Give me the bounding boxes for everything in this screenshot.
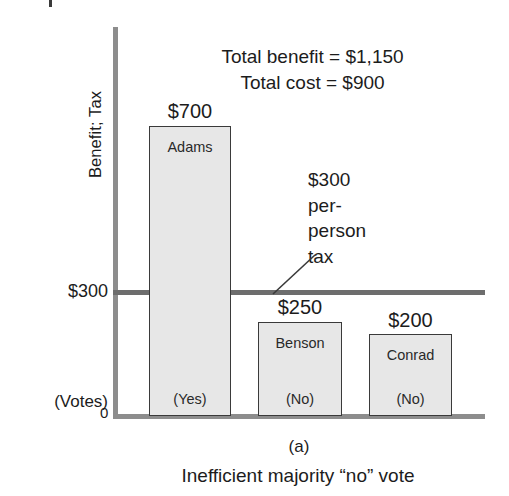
bar-vote-conrad: (No) bbox=[370, 391, 451, 407]
bar-label-conrad: Conrad bbox=[370, 347, 451, 363]
bar-value-conrad: $200 bbox=[369, 309, 452, 332]
bar-benson[interactable]: Benson (No) bbox=[258, 322, 342, 416]
bar-vote-benson: (No) bbox=[259, 391, 341, 407]
bar-adams[interactable]: Adams (Yes) bbox=[149, 126, 231, 416]
y-axis-line bbox=[113, 27, 118, 418]
totals-annotation: Total benefit = $1,150 Total cost = $900 bbox=[180, 44, 445, 96]
bar-value-adams: $700 bbox=[149, 100, 231, 123]
panel-letter-caption: (a) bbox=[113, 437, 485, 457]
y-tick-label-300: $300 bbox=[8, 281, 108, 302]
bar-conrad[interactable]: Conrad (No) bbox=[369, 334, 452, 416]
bar-label-benson: Benson bbox=[259, 335, 341, 351]
total-cost-text: Total cost = $900 bbox=[180, 70, 445, 96]
corner-crop-mark bbox=[49, 0, 52, 7]
tax-leader-line bbox=[265, 252, 325, 298]
y-axis-votes-label: (Votes) bbox=[8, 392, 108, 412]
figure-container: Benefit; Tax $300 (Votes) 0 Total benefi… bbox=[0, 0, 509, 496]
tax-note-line-2: per- bbox=[308, 193, 418, 219]
bar-value-benson: $250 bbox=[258, 296, 342, 319]
y-axis-title: Benefit; Tax bbox=[86, 35, 105, 235]
bar-vote-adams: (Yes) bbox=[150, 391, 230, 407]
bar-label-adams: Adams bbox=[150, 139, 230, 155]
tax-note-line-3: person bbox=[308, 218, 418, 244]
y-tick-label-zero: 0 bbox=[100, 404, 108, 421]
tax-note-line-1: $300 bbox=[308, 167, 418, 193]
total-benefit-text: Total benefit = $1,150 bbox=[180, 44, 445, 70]
figure-caption: Inefficient majority “no” vote bbox=[63, 465, 509, 487]
